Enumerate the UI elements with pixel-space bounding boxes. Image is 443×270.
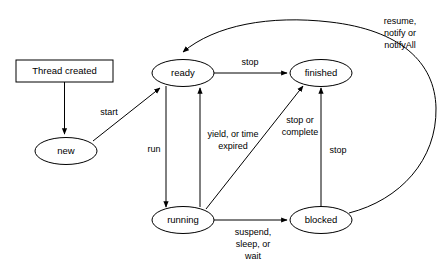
thread-state-diagram: Thread created new ready finished runnin… xyxy=(0,0,443,270)
diagram-canvas: Thread created new ready finished runnin… xyxy=(0,0,443,270)
edge-label-resume-line1: resume, xyxy=(384,16,417,26)
edge-label-stop-blocked-finished: stop xyxy=(329,145,346,155)
edge-label-start: start xyxy=(100,107,118,117)
node-thread-created-label: Thread created xyxy=(32,65,96,76)
node-new-label: new xyxy=(57,145,75,156)
edge-label-resume-line2: notify or xyxy=(384,28,416,38)
edge-label-suspend-line2: sleep, or xyxy=(236,239,271,249)
node-blocked-label: blocked xyxy=(305,214,338,225)
node-ready-label: ready xyxy=(171,67,195,78)
edge-label-stop-complete-line2: complete xyxy=(282,127,319,137)
node-finished-label: finished xyxy=(305,67,338,78)
edge-label-stop-ready-finished: stop xyxy=(241,57,258,67)
edge-label-stop-complete-line1: stop or xyxy=(286,115,314,125)
edge-label-yield-line1: yield, or time xyxy=(207,129,258,139)
edge-label-yield-line2: expired xyxy=(218,141,248,151)
edge-label-suspend-line3: wait xyxy=(244,251,262,261)
edge-label-suspend-line1: suspend, xyxy=(235,227,272,237)
node-running-label: running xyxy=(167,214,199,225)
edge-label-run: run xyxy=(147,144,160,154)
edge-label-resume-line3: notifyAll xyxy=(384,40,416,50)
